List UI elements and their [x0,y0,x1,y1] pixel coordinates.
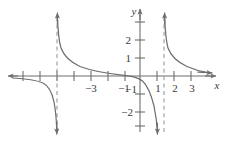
x-tick-label-1: 1 [155,82,161,94]
curve-branch-middle [57,16,157,131]
y-axis-name-label: y [131,5,137,17]
curve-branch-right-arrow-x [198,72,212,73]
curve-branch-left [13,78,57,130]
vertical-asymptotes [57,14,164,132]
curve-branches [13,13,212,134]
plot-canvas: −3 −1 1 2 3 2 1 −1 −2 x y [0,0,229,142]
x-tick-label--3: −3 [85,82,97,94]
x-tick-label-2: 2 [172,82,178,94]
y-tick-label--1: −1 [125,83,137,95]
y-tick-label--2: −2 [121,106,133,118]
curve-branch-right [165,16,208,73]
x-axis-name-label: x [214,79,220,91]
graph-figure: −3 −1 1 2 3 2 1 −1 −2 x y [0,0,229,142]
y-tick-label-1: 1 [126,52,132,64]
y-tick-label-2: 2 [126,34,132,46]
x-tick-label-3: 3 [189,82,195,94]
